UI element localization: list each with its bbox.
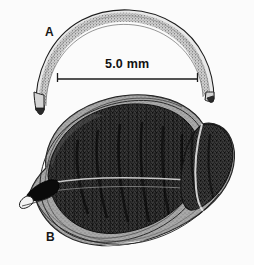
panel-label-a: A: [45, 26, 54, 38]
specimen-b-beak-tip: [19, 196, 33, 208]
figure-artwork: [0, 0, 254, 265]
specimen-a-left-tip: [36, 108, 44, 115]
figure-plate: A B 5.0 mm: [0, 0, 254, 265]
scale-bar-graphic: [57, 73, 198, 82]
scale-bar-label: 5.0 mm: [105, 58, 149, 71]
panel-label-b: B: [46, 231, 55, 243]
